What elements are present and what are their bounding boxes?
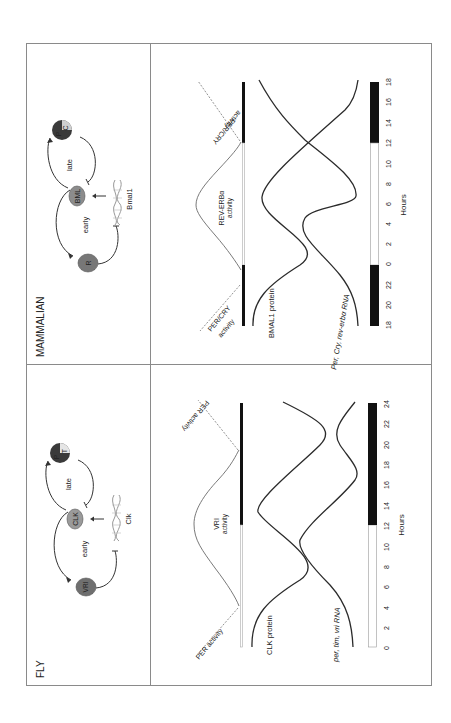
- tick-label: 16: [383, 481, 390, 489]
- vri-repression-arc: [96, 551, 116, 588]
- circadian-clock-figure: MAMMALIAN R BML P C: [0, 0, 451, 723]
- hours-axis-label: Hours: [399, 194, 408, 215]
- per-activity-bar: [240, 403, 243, 525]
- rev-erb-activity-label: REV-ERBα: [218, 191, 225, 226]
- early-label: early: [80, 541, 89, 558]
- clk-node: CLK: [67, 509, 83, 529]
- vri-activity-label: VRI: [213, 518, 220, 530]
- late-label: late: [64, 478, 73, 490]
- tick-label: 4: [383, 606, 390, 610]
- tick-label: 18: [385, 78, 392, 86]
- tick-label: 10: [383, 543, 390, 551]
- node-label-bml: BML: [74, 189, 81, 204]
- early-label: early: [81, 217, 90, 234]
- tick-label: 14: [385, 119, 392, 127]
- hours-axis-ticks: 18 20 22 0 2 4 6 8 10 12 14 16 18: [385, 78, 392, 329]
- node-label-p: P: [53, 454, 60, 459]
- arrowhead-icon: [90, 517, 94, 522]
- tick-label: 20: [383, 441, 390, 449]
- hours-axis-ticks: 0 2 4 6 8 10 12 14 16 18 20 22 24: [383, 400, 390, 650]
- tick-label: 6: [383, 585, 390, 589]
- node-label-r: R: [85, 260, 92, 265]
- node-label-t: T: [61, 448, 68, 453]
- tick-label: 16: [385, 98, 392, 106]
- per-cry-left-guide: [200, 285, 240, 331]
- node-label-vri: VRI: [82, 581, 89, 592]
- per-activity-label-left: PER activity: [194, 627, 225, 661]
- per-tim-vri-rna-curve: [300, 402, 357, 647]
- per-tim-repression-arc: [78, 460, 93, 505]
- tick-label: 20: [385, 301, 392, 309]
- dark-period-bar: [368, 403, 377, 525]
- fly-timecourse-plot: PER activity PER activity VRI activity C…: [180, 399, 406, 663]
- vri-activity-bar: [241, 525, 243, 647]
- dna-helix-icon: [113, 180, 122, 225]
- mammalian-panel: MAMMALIAN R BML P C: [35, 78, 408, 370]
- tick-label: 10: [385, 160, 392, 168]
- dark-period-bar: [370, 82, 379, 143]
- per-tim-vri-rna-label: per, tim, vri RNA: [331, 607, 342, 663]
- tick-label: 0: [383, 646, 390, 650]
- arrowhead-icon: [92, 194, 96, 199]
- panel-title-mammalian: MAMMALIAN: [35, 296, 46, 357]
- late-arrow-arc: [46, 461, 66, 510]
- tick-label: 12: [383, 522, 390, 530]
- arrowhead-icon: [47, 138, 53, 143]
- per-tim-complex-node: P T: [50, 443, 70, 463]
- light-period-bar: [369, 525, 377, 647]
- tick-label: 22: [385, 281, 392, 289]
- node-label-clk: CLK: [72, 512, 79, 526]
- fly-model-diagram: VRI CLK P T early late: [45, 443, 133, 596]
- late-label: late: [65, 159, 74, 171]
- bmal1-protein-label: BMAL1 protein: [267, 288, 276, 338]
- vri-activity-label-2: activity: [221, 513, 229, 534]
- mammalian-timecourse-plot: PER/CRY activity PER/CRY activity REV-ER…: [196, 78, 408, 370]
- panel-title-fly: FLY: [35, 660, 46, 678]
- tick-label: 14: [383, 502, 390, 510]
- hours-axis-label: Hours: [397, 514, 406, 535]
- vri-node: VRI: [76, 578, 96, 596]
- fly-panel: FLY VRI CLK P T: [35, 399, 406, 678]
- dna-helix-icon: [112, 495, 121, 541]
- per-cry-rna-label: Per, Cry, rev-erbα RNA: [329, 293, 351, 370]
- tick-label: 18: [383, 461, 390, 469]
- mammalian-model-diagram: R BML P C early late: [47, 120, 134, 272]
- node-label-c: C: [62, 125, 69, 130]
- clk-protein-curve: [252, 402, 326, 647]
- gene-label-clk: Clk: [124, 513, 133, 524]
- tick-label: 4: [385, 222, 392, 226]
- tick-label: 24: [383, 400, 390, 408]
- node-label-p: P: [55, 131, 62, 136]
- gene-label-bmal1: Bmal1: [125, 188, 134, 209]
- tick-label: 2: [383, 626, 390, 630]
- dark-period-bar: [370, 265, 379, 326]
- clk-protein-label: CLK protein: [265, 615, 274, 655]
- rev-erb-repression-arc: [98, 226, 118, 264]
- light-period-bar: [371, 143, 379, 265]
- rev-erb-node: R: [78, 254, 98, 272]
- tick-label: 8: [385, 182, 392, 186]
- tick-label: 22: [383, 420, 390, 428]
- tick-label: 0: [385, 262, 392, 266]
- per-cry-complex-node: P C: [52, 120, 72, 140]
- tick-label: 12: [385, 139, 392, 147]
- tick-label: 2: [385, 242, 392, 246]
- arrowhead-icon: [45, 461, 51, 466]
- per-activity-label-right: PER activity: [180, 399, 211, 433]
- bmal-node: BML: [69, 186, 85, 206]
- tick-label: 18: [385, 321, 392, 329]
- per-cry-repression-arc: [80, 137, 95, 182]
- per-cry-activity-bar-left: [242, 265, 245, 326]
- tick-label: 8: [383, 565, 390, 569]
- arrowhead-icon: [68, 253, 73, 259]
- tick-label: 6: [385, 202, 392, 206]
- rev-erb-activity-label-2: activity: [226, 197, 234, 218]
- rev-erb-activity-bar: [243, 143, 245, 265]
